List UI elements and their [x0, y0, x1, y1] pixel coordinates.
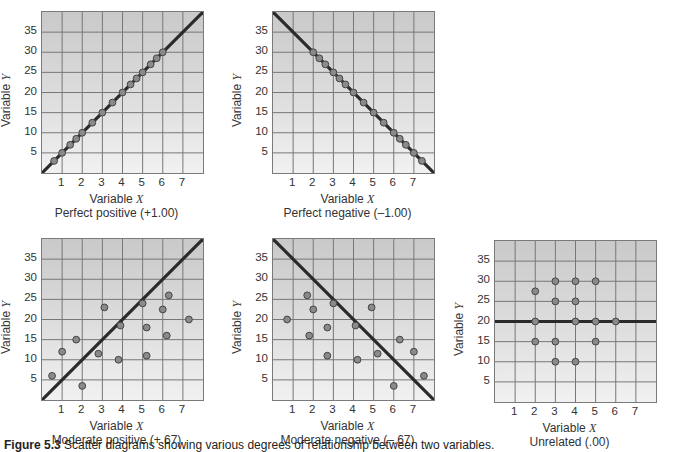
- y-axis-label: Variable Y: [452, 302, 467, 355]
- x-tick-label: 2: [74, 403, 88, 415]
- y-tick-label: 15: [468, 334, 490, 346]
- y-tick-label: 15: [246, 105, 268, 117]
- y-tick-label: 5: [15, 145, 37, 157]
- x-tick-label: 5: [366, 176, 380, 188]
- x-tick-label: 1: [285, 176, 299, 188]
- y-axis-label: Variable Y: [230, 73, 245, 126]
- y-tick-label: 15: [15, 332, 37, 344]
- plot-area: [272, 238, 435, 401]
- y-tick-label: 15: [15, 105, 37, 117]
- x-tick-label: 3: [325, 176, 339, 188]
- panel-subtitle: Perfect positive (+1.00): [17, 206, 217, 220]
- y-tick-label: 35: [246, 24, 268, 36]
- x-tick-label: 4: [346, 176, 360, 188]
- y-tick-label: 25: [15, 291, 37, 303]
- panel-subtitle: Unrelated (.00): [470, 435, 670, 449]
- x-tick-label: 4: [115, 403, 129, 415]
- plot-area: [494, 240, 657, 403]
- y-tick-label: 35: [246, 251, 268, 263]
- x-tick-label: 5: [135, 403, 149, 415]
- y-tick-label: 20: [468, 314, 490, 326]
- x-tick-label: 1: [285, 403, 299, 415]
- y-tick-label: 35: [15, 24, 37, 36]
- x-tick-label: 1: [54, 176, 68, 188]
- x-tick-label: 3: [325, 403, 339, 415]
- x-axis-label: Variable X: [17, 419, 217, 434]
- y-tick-label: 5: [468, 374, 490, 386]
- y-tick-label: 30: [15, 44, 37, 56]
- x-tick-label: 7: [406, 176, 420, 188]
- x-tick-label: 2: [527, 405, 541, 417]
- plot-area: [272, 11, 435, 174]
- x-axis-label: Variable X: [470, 421, 670, 436]
- x-tick-label: 4: [346, 403, 360, 415]
- x-tick-label: 5: [366, 403, 380, 415]
- y-tick-label: 35: [15, 251, 37, 263]
- y-tick-label: 30: [246, 271, 268, 283]
- x-tick-label: 3: [94, 403, 108, 415]
- x-tick-label: 2: [305, 403, 319, 415]
- x-tick-label: 7: [175, 176, 189, 188]
- y-tick-label: 25: [246, 64, 268, 76]
- x-axis-label: Variable X: [17, 192, 217, 207]
- figure-caption: Figure 5.3 Scatter diagrams showing vari…: [4, 438, 494, 452]
- plot-area: [41, 238, 204, 401]
- y-tick-label: 30: [468, 273, 490, 285]
- x-tick-label: 7: [628, 405, 642, 417]
- y-axis-label: Variable Y: [230, 300, 245, 353]
- x-tick-label: 4: [115, 176, 129, 188]
- x-tick-label: 6: [608, 405, 622, 417]
- y-tick-label: 25: [468, 293, 490, 305]
- y-tick-label: 15: [246, 332, 268, 344]
- y-tick-label: 25: [246, 291, 268, 303]
- x-tick-label: 5: [588, 405, 602, 417]
- x-tick-label: 1: [507, 405, 521, 417]
- y-axis-label: Variable Y: [0, 73, 14, 126]
- y-tick-label: 10: [15, 352, 37, 364]
- y-tick-label: 10: [15, 125, 37, 137]
- y-tick-label: 35: [468, 253, 490, 265]
- figure-caption-label: Figure 5.3: [4, 438, 61, 452]
- x-axis-label: Variable X: [248, 419, 448, 434]
- x-tick-label: 2: [305, 176, 319, 188]
- x-axis-label: Variable X: [248, 192, 448, 207]
- x-tick-label: 6: [386, 176, 400, 188]
- y-tick-label: 20: [246, 312, 268, 324]
- x-tick-label: 6: [386, 403, 400, 415]
- x-tick-label: 3: [547, 405, 561, 417]
- y-tick-label: 20: [15, 85, 37, 97]
- x-tick-label: 4: [568, 405, 582, 417]
- y-tick-label: 5: [246, 145, 268, 157]
- x-tick-label: 6: [155, 403, 169, 415]
- y-tick-label: 30: [15, 271, 37, 283]
- y-tick-label: 5: [15, 372, 37, 384]
- x-tick-label: 5: [135, 176, 149, 188]
- x-tick-label: 7: [406, 403, 420, 415]
- y-tick-label: 30: [246, 44, 268, 56]
- y-tick-label: 20: [246, 85, 268, 97]
- y-tick-label: 10: [246, 125, 268, 137]
- panel-subtitle: Perfect negative (–1.00): [248, 206, 448, 220]
- y-tick-label: 10: [468, 354, 490, 366]
- x-tick-label: 2: [74, 176, 88, 188]
- figure-caption-text: Scatter diagrams showing various degrees…: [64, 438, 494, 452]
- y-tick-label: 5: [246, 372, 268, 384]
- x-tick-label: 7: [175, 403, 189, 415]
- y-tick-label: 25: [15, 64, 37, 76]
- x-tick-label: 1: [54, 403, 68, 415]
- x-tick-label: 3: [94, 176, 108, 188]
- y-axis-label: Variable Y: [0, 300, 14, 353]
- y-tick-label: 20: [15, 312, 37, 324]
- y-tick-label: 10: [246, 352, 268, 364]
- plot-area: [41, 11, 204, 174]
- x-tick-label: 6: [155, 176, 169, 188]
